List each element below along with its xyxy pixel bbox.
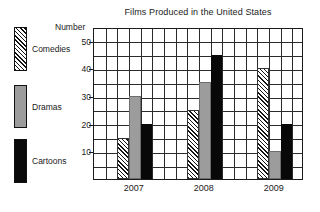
y-axis-tick-labels: 5040302010 bbox=[52, 28, 91, 180]
y-axis-tick-mark bbox=[89, 125, 93, 126]
x-axis-tick-label-2009: 2009 bbox=[254, 183, 294, 193]
x-axis-tick-labels: 200720082009 bbox=[93, 183, 303, 197]
bar-dramas-2009 bbox=[269, 151, 281, 179]
y-axis-tick-mark bbox=[89, 42, 93, 43]
x-axis-tick-label-2008: 2008 bbox=[184, 183, 224, 193]
bar-cartoons-2007 bbox=[141, 124, 153, 179]
y-axis-tick-label: 50 bbox=[55, 38, 91, 47]
bar-dramas-2007 bbox=[129, 96, 141, 179]
y-axis-tick-label: 40 bbox=[55, 65, 91, 74]
bars-layer bbox=[94, 29, 302, 179]
bar-cartoons-2008 bbox=[211, 55, 223, 179]
legend-swatch-dramas-icon bbox=[14, 85, 27, 128]
x-axis-tick-label-2007: 2007 bbox=[114, 183, 154, 193]
bar-cartoons-2009 bbox=[281, 124, 293, 179]
chart-title: Films Produced in the United States bbox=[93, 7, 303, 17]
bar-comedies-2009 bbox=[257, 68, 269, 179]
y-axis-tick-label: 10 bbox=[55, 148, 91, 157]
y-axis-tick-label: 30 bbox=[55, 93, 91, 102]
bar-dramas-2008 bbox=[199, 82, 211, 179]
bar-comedies-2007 bbox=[117, 138, 129, 179]
y-axis-tick-label: 20 bbox=[55, 121, 91, 130]
bar-comedies-2008 bbox=[187, 110, 199, 179]
y-axis-tick-mark bbox=[89, 69, 93, 70]
plot-area bbox=[93, 28, 303, 180]
legend-swatch-cartoons-icon bbox=[14, 139, 27, 183]
legend-swatch-comedies-icon bbox=[14, 27, 27, 71]
y-axis-tick-mark bbox=[89, 152, 93, 153]
y-axis-tick-mark bbox=[89, 97, 93, 98]
